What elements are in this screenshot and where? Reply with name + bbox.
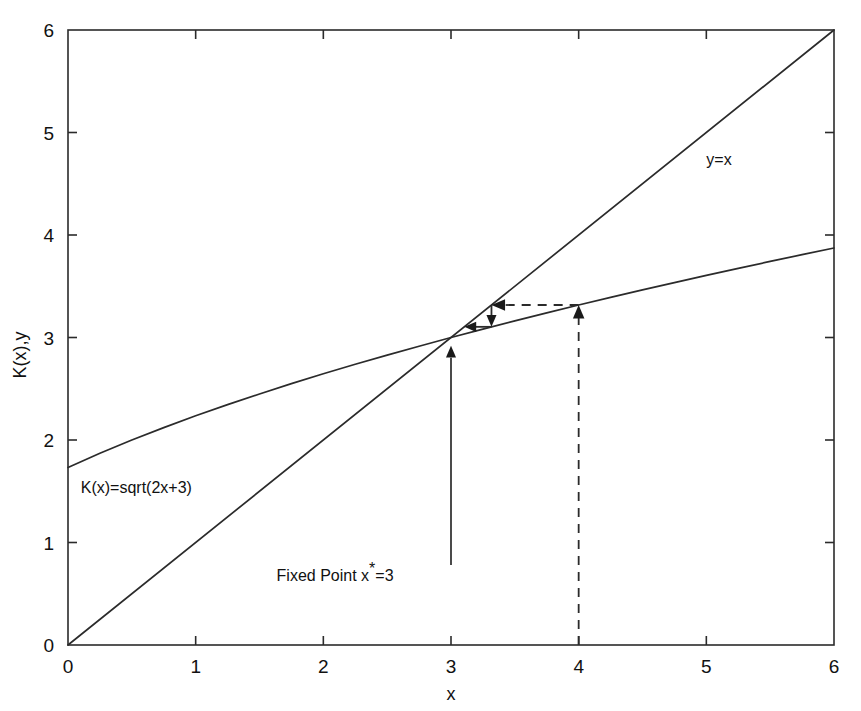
x-tick-label: 0: [63, 656, 74, 677]
y-tick-label: 0: [43, 635, 54, 656]
y-tick-labels: 0123456: [43, 20, 54, 656]
x-tick-labels: 0123456: [63, 656, 840, 677]
cobweb-arrowhead-2: [486, 315, 496, 327]
y-axis-title: K(x),y: [10, 332, 30, 379]
y-tick-label: 4: [43, 225, 54, 246]
fixed-point-iteration-chart: 0123456 0123456 x K(x),y K(x)=sqrt(2x+3)…: [0, 0, 861, 711]
x-tick-label: 2: [318, 656, 329, 677]
fixed-point-text: Fixed Point x: [277, 567, 369, 584]
curve-label-kx: K(x)=sqrt(2x+3): [81, 479, 192, 496]
curve-label-identity: y=x: [706, 151, 731, 168]
cobweb-arrowhead-0: [573, 305, 585, 319]
y-tick-label: 5: [43, 123, 54, 144]
cobweb-arrowhead-1: [491, 299, 505, 311]
x-tick-label: 1: [190, 656, 201, 677]
cobweb-iteration-group: [464, 299, 584, 645]
x-tick-label: 5: [701, 656, 712, 677]
x-tick-label: 3: [446, 656, 457, 677]
cobweb-arrowhead-3: [464, 322, 476, 332]
x-tick-label: 4: [573, 656, 584, 677]
y-tick-label: 6: [43, 20, 54, 41]
y-tick-label: 3: [43, 328, 54, 349]
y-tick-label: 2: [43, 430, 54, 451]
fixed-point-pointer-arrowhead: [446, 346, 456, 358]
fixed-point-pointer-group: [446, 346, 456, 565]
y-tick-label: 1: [43, 533, 54, 554]
fixed-point-suffix: =3: [375, 567, 393, 584]
figure-container: 0123456 0123456 x K(x),y K(x)=sqrt(2x+3)…: [0, 0, 861, 711]
x-tick-label: 6: [829, 656, 840, 677]
fixed-point-annotation: Fixed Point x*=3: [277, 560, 394, 584]
x-axis-title: x: [447, 684, 456, 704]
